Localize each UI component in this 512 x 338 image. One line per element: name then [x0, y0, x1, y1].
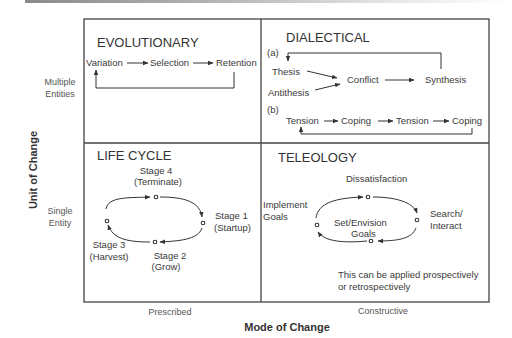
- quadrant-dialectical: DIALECTICAL (a) Thesis Antithesis Confli…: [267, 30, 482, 134]
- change-theories-diagram: Unit of Change Multiple Entities Single …: [0, 0, 512, 338]
- teleology-note-line1: This can be applied prospectively: [338, 269, 479, 280]
- y-tick-single: Single: [47, 206, 72, 216]
- node-search-line2: Interact: [430, 220, 462, 231]
- life-cycle-title: LIFE CYCLE: [97, 148, 172, 163]
- quadrant-teleology: TELEOLOGY Dissatisfaction Implement Goal…: [263, 150, 479, 292]
- node-implement-line2: Goals: [263, 211, 288, 222]
- y-tick-multiple: Multiple: [44, 77, 75, 87]
- node-selection: Selection: [150, 57, 189, 68]
- y-axis-title: Unit of Change: [27, 131, 39, 209]
- node-search-line1: Search/: [430, 208, 463, 219]
- node-set-goals-line1: Set/Envision: [334, 217, 387, 228]
- stage-2-name: Stage 2: [154, 250, 187, 261]
- stage-1-name: Stage 1: [215, 210, 248, 221]
- part-a-label: (a): [267, 47, 279, 58]
- stage-3-name: Stage 3: [93, 239, 126, 250]
- y-tick-entities: Entities: [45, 89, 75, 99]
- x-tick-prescribed: Prescribed: [148, 307, 191, 317]
- stage-4-desc: (Terminate): [134, 176, 182, 187]
- teleology-note-line2: or retrospectively: [338, 281, 411, 292]
- teleology-title: TELEOLOGY: [278, 150, 357, 165]
- x-tick-constructive: Constructive: [358, 306, 408, 316]
- part-b-label: (b): [267, 104, 279, 115]
- node-implement-line1: Implement: [263, 199, 308, 210]
- node-variation: Variation: [86, 57, 123, 68]
- node-coping-2: Coping: [452, 115, 482, 126]
- quadrant-evolutionary: EVOLUTIONARY Variation Selection Retenti…: [86, 35, 257, 88]
- node-tension-1: Tension: [286, 115, 319, 126]
- stage-3-desc: (Harvest): [89, 251, 128, 262]
- y-tick-entity: Entity: [49, 218, 72, 228]
- x-axis-title: Mode of Change: [244, 321, 330, 333]
- stage-markers: [105, 195, 205, 244]
- node-synthesis: Synthesis: [425, 74, 466, 85]
- node-conflict: Conflict: [347, 74, 379, 85]
- quadrant-life-cycle: LIFE CYCLE Stage 4 (Terminate) Stage 1 (…: [89, 148, 251, 272]
- node-tension-2: Tension: [396, 115, 429, 126]
- node-coping-1: Coping: [341, 115, 371, 126]
- node-thesis: Thesis: [272, 66, 300, 77]
- stage-4-name: Stage 4: [140, 165, 173, 176]
- node-set-goals-line2: Goals: [351, 228, 376, 239]
- evolutionary-title: EVOLUTIONARY: [97, 35, 199, 50]
- dialectical-title: DIALECTICAL: [286, 30, 370, 45]
- stage-1-desc: (Startup): [214, 222, 251, 233]
- node-dissatisfaction: Dissatisfaction: [346, 173, 407, 184]
- node-antithesis: Antithesis: [268, 87, 309, 98]
- stage-2-desc: (Grow): [151, 261, 180, 272]
- node-retention: Retention: [216, 57, 257, 68]
